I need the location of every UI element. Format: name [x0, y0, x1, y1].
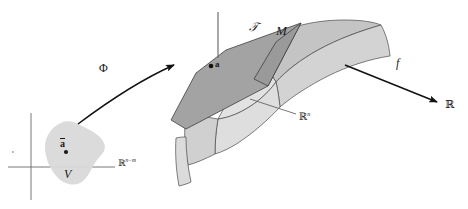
phi-arrow-label: Φ	[99, 62, 108, 74]
f-arrow-label: f	[396, 57, 399, 69]
domain-point-marker	[64, 150, 68, 154]
domain-axis-label: ℝn−m	[118, 158, 136, 168]
phi-arrow	[78, 65, 174, 124]
domain-point-label: a	[60, 139, 65, 149]
domain-region-blob	[45, 121, 105, 184]
ambient-space-superscript: n	[307, 110, 310, 117]
manifold-diagram-figure: Φ 𝒯 M a ℝn f ℝ a V ℝn−m	[0, 0, 468, 209]
domain-axis-superscript: n−m	[125, 157, 136, 163]
tangent-plane-label: 𝒯	[249, 21, 258, 33]
domain-point-symbol: a	[60, 139, 65, 149]
f-arrow	[345, 65, 437, 102]
ambient-space-label: ℝn	[299, 111, 310, 122]
manifold-label: M	[276, 24, 287, 37]
codomain-label: ℝ	[445, 99, 454, 110]
manifold-point-marker	[209, 64, 214, 69]
manifold-point-label: a	[215, 60, 220, 69]
domain-region-label: V	[64, 168, 71, 180]
